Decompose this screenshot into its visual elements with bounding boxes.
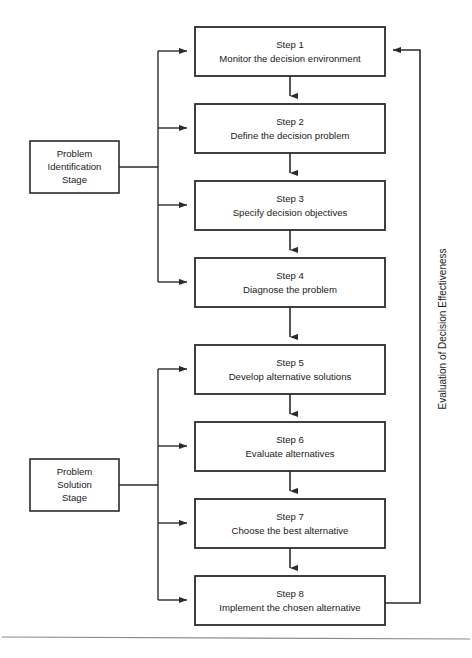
step-box-rect <box>195 181 385 230</box>
step-box-rect <box>195 422 385 471</box>
feedback-loop-connector <box>385 50 420 603</box>
step-box-7[interactable]: Step 7 Choose the best alternative <box>195 499 385 548</box>
step-box-5[interactable]: Step 5 Develop alternative solutions <box>195 345 385 394</box>
step-description-label: Specify decision objectives <box>233 207 348 218</box>
identification-stage-connectors <box>119 51 187 282</box>
feedback-path-step8-to-step1 <box>385 50 420 603</box>
solution-stage-connectors <box>119 369 187 600</box>
flowchart-page: Step 1 Monitor the decision environment … <box>0 0 472 658</box>
problem-identification-stage-box[interactable]: Problem Identification Stage <box>30 141 119 193</box>
step-description-label: Choose the best alternative <box>232 525 349 536</box>
stage-label-line-3: Stage <box>62 492 87 503</box>
step-box-3[interactable]: Step 3 Specify decision objectives <box>195 181 385 230</box>
step-number-label: Step 8 <box>276 588 304 599</box>
step-number-label: Step 2 <box>276 116 304 127</box>
step-number-label: Step 6 <box>276 434 304 445</box>
step-box-rect <box>195 345 385 394</box>
problem-solution-stage-box[interactable]: Problem Solution Stage <box>30 459 119 511</box>
step-description-label: Monitor the decision environment <box>219 53 361 64</box>
stage-label-line-1: Problem <box>57 148 93 159</box>
step-box-rect <box>195 258 385 307</box>
step-number-label: Step 5 <box>276 357 304 368</box>
stage-label-line-2: Identification <box>48 161 102 172</box>
step-description-label: Evaluate alternatives <box>245 448 334 459</box>
step-number-label: Step 7 <box>276 511 304 522</box>
step-box-4[interactable]: Step 4 Diagnose the problem <box>195 258 385 307</box>
step-box-2[interactable]: Step 2 Define the decision problem <box>195 104 385 153</box>
step-description-label: Diagnose the problem <box>243 284 337 295</box>
step-number-label: Step 4 <box>276 270 304 281</box>
step-number-label: Step 3 <box>276 193 304 204</box>
step-box-rect <box>195 27 385 76</box>
step-description-label: Develop alternative solutions <box>229 371 352 382</box>
stage-label-line-1: Problem <box>57 466 93 477</box>
step-box-rect <box>195 499 385 548</box>
step-description-label: Implement the chosen alternative <box>219 602 360 613</box>
step-box-1[interactable]: Step 1 Monitor the decision environment <box>195 27 385 76</box>
step-box-8[interactable]: Step 8 Implement the chosen alternative <box>195 576 385 625</box>
feedback-label: Evaluation of Decision Effectiveness <box>437 248 448 409</box>
stage-label-line-2: Solution <box>57 479 92 490</box>
step-box-6[interactable]: Step 6 Evaluate alternatives <box>195 422 385 471</box>
step-description-label: Define the decision problem <box>231 130 350 141</box>
step-box-rect <box>195 104 385 153</box>
decision-process-diagram: Step 1 Monitor the decision environment … <box>0 0 472 658</box>
bottom-divider <box>2 637 470 639</box>
stage-label-line-3: Stage <box>62 174 87 185</box>
step-number-label: Step 1 <box>276 39 304 50</box>
step-box-rect <box>195 576 385 625</box>
